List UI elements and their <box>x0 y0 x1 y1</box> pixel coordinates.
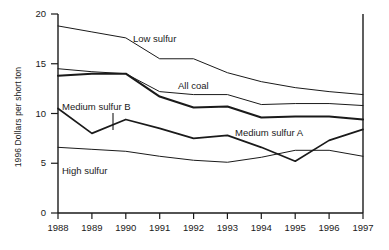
series-line-medium-sulfur-a <box>58 74 363 120</box>
line-chart: 20 15 10 5 0 1988 1989 1990 1991 1992 19… <box>0 0 389 250</box>
y-tick-label-15: 15 <box>22 58 46 69</box>
series-label-high-sulfur: High sulfur <box>62 165 107 176</box>
series-label-low-sulfur: Low sulfur <box>133 33 176 44</box>
series-line-high-sulfur <box>58 147 363 162</box>
y-tick-label-20: 20 <box>22 8 46 19</box>
series-label-all-coal: All coal <box>178 80 209 91</box>
series-label-medium-sulfur-a: Medium sulfur A <box>235 127 303 138</box>
series-line-low-sulfur <box>58 26 363 95</box>
x-tick-label-1997: 1997 <box>343 222 383 233</box>
y-axis-title: 1996 Dollars per short ton <box>13 47 23 187</box>
y-tick-label-10: 10 <box>22 108 46 119</box>
x-axis-ticks <box>58 213 363 219</box>
y-tick-label-5: 5 <box>22 157 46 168</box>
y-axis-ticks <box>51 14 58 213</box>
series-label-medium-sulfur-b: Medium sulfur B <box>62 101 131 112</box>
data-series-group <box>58 26 363 162</box>
y-tick-label-0: 0 <box>22 207 46 218</box>
plot-area <box>0 0 389 250</box>
